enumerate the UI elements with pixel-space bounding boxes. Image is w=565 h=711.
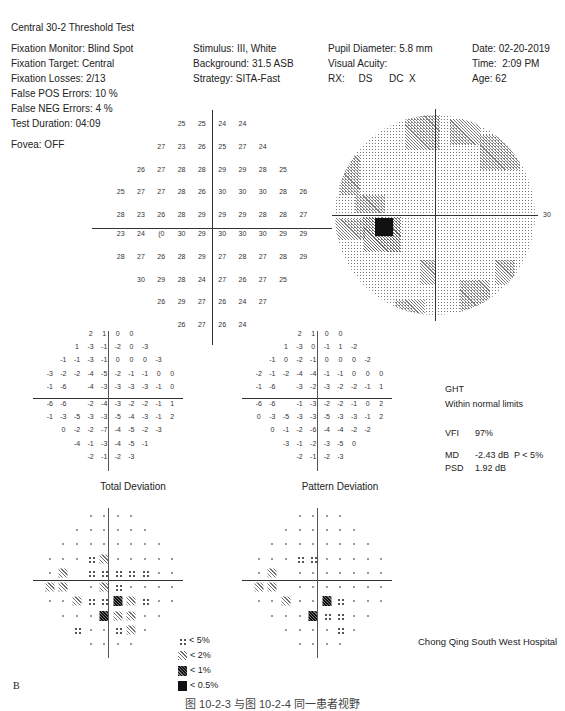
pattern_deviation-value: -1 [265,356,279,363]
total_deviation-value: -1 [152,383,166,390]
fovea-status: Fovea: OFF [11,139,64,150]
dot-symbol-icon [322,625,332,635]
dot-symbol-icon [376,596,386,606]
pattern_deviation-value: 0 [333,330,347,337]
pattern_deviation-value: 0 [361,400,375,407]
threshold-value: 27 [153,166,169,173]
total_deviation-value: 0 [56,426,70,433]
threshold-value: 26 [214,321,230,328]
dot-symbol-icon [335,639,345,649]
pattern_deviation-value: 1 [279,343,293,350]
total_deviation-value: -4 [111,440,125,447]
total_deviation-value: -2 [84,400,98,407]
pattern_deviation-value: -2 [361,426,375,433]
total_deviation-value: -1 [138,370,152,377]
dot-symbol-icon [295,596,305,606]
pattern_deviation-value: -3 [320,383,334,390]
pattern_deviation-value: 1 [374,383,388,390]
dot-symbol-icon [113,539,123,549]
legend-p5: < 5% [178,635,210,645]
dot-symbol-icon [154,611,164,621]
pattern_deviation-value: -2 [293,356,307,363]
dot-symbol-icon [363,554,373,564]
pattern_deviation-value: -6 [265,383,279,390]
hospital-name: Chong Qing South West Hospital [418,636,557,647]
threshold-value: 26 [153,211,169,218]
total_deviation-value: 2 [165,413,179,420]
pattern_deviation-value: -3 [306,400,320,407]
total_deviation-value: 1 [165,400,179,407]
pattern_deviation-value: 0 [279,356,293,363]
dot-symbol-icon [154,554,164,564]
total_deviation-value: 0 [165,383,179,390]
dot-symbol-icon [58,539,68,549]
pattern_deviation-value: -2 [320,453,334,460]
threshold-value: 30 [214,230,230,237]
pattern_deviation-value: -3 [279,440,293,447]
pattern_deviation-value: -6 [252,400,266,407]
total_deviation-value: -3 [97,440,111,447]
dot-symbol-icon [295,539,305,549]
total_deviation-value: -2 [111,453,125,460]
fixation-monitor: Fixation Monitor: Blind Spot [11,41,133,56]
dot-symbol-icon [349,539,359,549]
threshold-value: 28 [234,253,250,260]
p05-symbol-icon [178,681,187,691]
pattern_deviation-value: -3 [293,383,307,390]
p5-symbol-icon [114,583,122,591]
test-duration: Test Duration: 04:09 [11,116,133,131]
threshold-value: 24 [194,276,210,283]
total_deviation-value: -1 [97,453,111,460]
dot-symbol-icon [267,539,277,549]
dot-symbol-icon [349,568,359,578]
threshold-value: 24 [255,143,271,150]
total_deviation-value: -1 [43,383,57,390]
dot-symbol-icon [281,539,291,549]
dot-symbol-icon [322,554,332,564]
dot-symbol-icon [281,611,291,621]
pattern_deviation-value: -4 [333,426,347,433]
threshold-value: 25 [194,120,210,127]
total_deviation-value: -3 [84,343,98,350]
dot-symbol-icon [295,639,305,649]
total_deviation-value: -3 [97,383,111,390]
p5-symbol-icon [73,626,81,634]
threshold-value: 30 [174,230,190,237]
p2-symbol-icon [282,597,291,606]
threshold-value: 28 [255,166,271,173]
pattern_deviation-value: -2 [333,383,347,390]
threshold-value: 29 [194,253,210,260]
fixation-target: Fixation Target: Central [11,56,133,71]
pattern_deviation-value: -1 [306,453,320,460]
p5-symbol-icon [323,612,331,620]
p5-symbol-icon [178,637,186,645]
threshold-value: 28 [275,211,291,218]
pattern_deviation-value: -2 [306,383,320,390]
dot-symbol-icon [140,525,150,535]
dot-symbol-icon [281,625,291,635]
dot-symbol-icon [267,611,277,621]
total_deviation-value: -2 [124,400,138,407]
threshold-value: 27 [133,253,149,260]
p5-symbol-icon [87,555,95,563]
dot-symbol-icon [86,539,96,549]
dot-symbol-icon [86,639,96,649]
dot-symbol-icon [322,639,332,649]
total_deviation-value: -4 [84,370,98,377]
dot-symbol-icon [126,511,136,521]
p2-symbol-icon [59,568,68,577]
legend-p05: < 0.5% [178,680,218,691]
pattern_deviation-value: 0 [306,343,320,350]
threshold-value: 24 [133,230,149,237]
threshold-value: 28 [174,276,190,283]
dot-symbol-icon [322,568,332,578]
header-column-4: Date: 02-20-2019 Time: 2:09 PM Age: 62 [472,41,550,86]
threshold-value: 30 [255,188,271,195]
threshold-value: 26 [194,188,210,195]
dot-symbol-icon [72,554,82,564]
dot-symbol-icon [167,582,177,592]
pattern_deviation-value: 0 [374,370,388,377]
total_deviation-value: 0 [152,370,166,377]
pattern_deviation-value: -1 [306,356,320,363]
pattern_deviation-value: -1 [347,400,361,407]
